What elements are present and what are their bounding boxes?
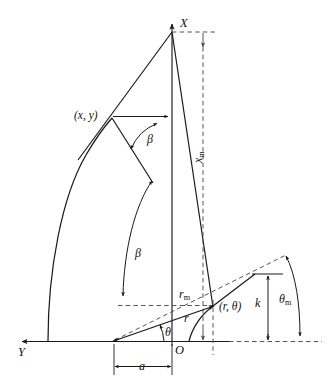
beta-lower-arc	[123, 181, 152, 296]
theta-arc	[160, 325, 164, 341]
beta-upper-label: β	[147, 133, 153, 145]
normal-segment-at-xy	[112, 118, 153, 183]
theta-m-label: θm	[279, 293, 291, 307]
a-label: a	[139, 360, 145, 372]
r-m-label: rm	[179, 288, 190, 302]
upper-chord-line	[78, 32, 172, 160]
outer-curve	[48, 118, 112, 341]
point-r-theta-label: (r, θ)	[219, 301, 241, 313]
y-axis-label: Y	[18, 346, 25, 359]
figure-container: X Y O (x, y) (r, θ) β β θ θm xm rm r k a	[0, 0, 329, 387]
r-label: r	[184, 312, 189, 324]
origin-label: O	[175, 344, 184, 357]
x-m-base: x	[191, 158, 205, 163]
x-m-sub: m	[197, 151, 206, 157]
tangent-dashed-ray	[115, 255, 286, 340]
beta-upper-arc	[131, 124, 157, 150]
x-m-label: xm	[192, 151, 206, 163]
theta-label: θ	[165, 326, 171, 338]
beta-lower-label: β	[135, 247, 141, 259]
theta-m-sub: m	[285, 298, 291, 307]
k-label: k	[255, 297, 260, 309]
r-m-sub: m	[184, 293, 190, 302]
apex-to-rtheta-line	[172, 32, 213, 307]
point-xy-label: (x, y)	[74, 110, 98, 122]
x-axis-label: X	[180, 17, 188, 30]
